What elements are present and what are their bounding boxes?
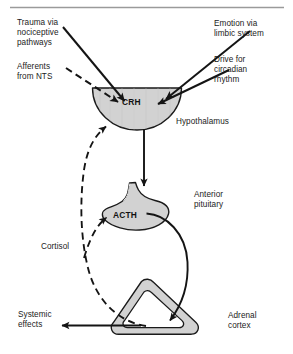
- label-acth: ACTH: [113, 210, 137, 220]
- diagram-canvas: [0, 0, 293, 354]
- label-adrenal-cortex: Adrenal cortex: [228, 311, 257, 331]
- label-drive-for-circadian-rhythm: Drive for circadian rhythm: [214, 55, 247, 86]
- label-trauma-via-nociceptive-pathways: Trauma via nociceptive pathways: [17, 18, 59, 49]
- label-crh: CRH: [122, 97, 141, 107]
- anterior-pituitary-organ: [102, 183, 168, 231]
- hpa-axis-figure: Trauma via nociceptive pathways Afferent…: [0, 0, 293, 354]
- label-hypothalamus: Hypothalamus: [176, 117, 229, 127]
- label-emotion-via-limbic-system: Emotion via limbic system: [214, 19, 264, 39]
- label-anterior-pituitary: Anterior pituitary: [194, 190, 223, 210]
- arrow-cortisol-to-acth: [84, 218, 107, 259]
- label-afferents-from-nts: Afferents from NTS: [17, 62, 52, 82]
- label-cortisol: Cortisol: [41, 242, 69, 252]
- label-systemic-effects: Systemic effects: [18, 310, 52, 330]
- anterior-pituitary-shape: [102, 183, 168, 231]
